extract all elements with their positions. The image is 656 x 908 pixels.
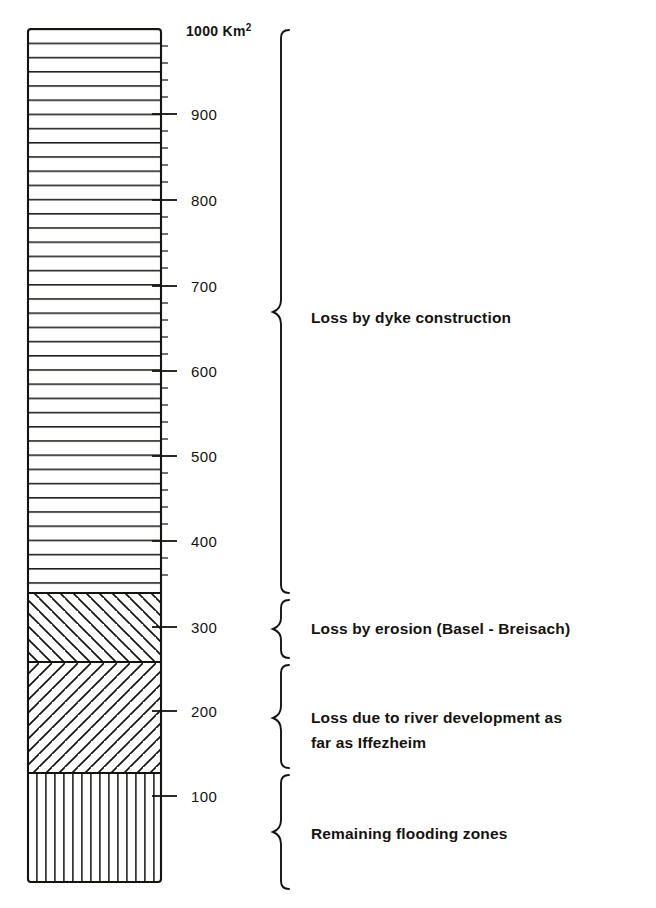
brace-loss-by-dyke-construction — [273, 30, 289, 593]
axis-tick-label-300: 300 — [191, 619, 217, 636]
category-label-loss-river-development-line2: far as Iffezheim — [311, 734, 426, 751]
stacked-bar-chart-svg: 1000 Km2 900 800 700 600 500 400 300 200… — [0, 0, 656, 908]
segment-remaining-flooding-zones — [28, 773, 161, 882]
brace-loss-river-development — [273, 665, 289, 768]
axis-tick-label-400: 400 — [191, 533, 217, 550]
category-label-loss-river-development-line1: Loss due to river development as — [311, 709, 562, 726]
bar-column — [28, 29, 161, 882]
category-braces — [273, 30, 289, 889]
category-labels: Loss by dyke construction Loss by erosio… — [311, 309, 570, 842]
axis-tick-labels: 1000 Km2 900 800 700 600 500 400 300 200… — [186, 22, 252, 805]
category-label-loss-by-dyke-construction: Loss by dyke construction — [311, 309, 511, 326]
axis-tick-label-200: 200 — [191, 703, 217, 720]
chart-figure: 1000 Km2 900 800 700 600 500 400 300 200… — [0, 0, 656, 908]
axis-tick-label-100: 100 — [191, 788, 217, 805]
segment-loss-by-dyke-construction — [28, 29, 161, 593]
axis-tick-label-700: 700 — [191, 278, 217, 295]
category-label-loss-by-erosion: Loss by erosion (Basel - Breisach) — [311, 620, 570, 637]
axis-tick-label-900: 900 — [191, 106, 217, 123]
segment-loss-by-erosion — [28, 593, 161, 662]
category-label-remaining-flooding-zones: Remaining flooding zones — [311, 825, 508, 842]
axis-tick-label-600: 600 — [191, 363, 217, 380]
segment-loss-river-development — [28, 662, 161, 773]
brace-loss-by-erosion — [273, 600, 289, 658]
axis-tick-label-1000: 1000 Km2 — [186, 22, 252, 39]
axis-tick-label-800: 800 — [191, 192, 217, 209]
brace-remaining-flooding-zones — [273, 775, 289, 889]
axis-tick-label-500: 500 — [191, 448, 217, 465]
